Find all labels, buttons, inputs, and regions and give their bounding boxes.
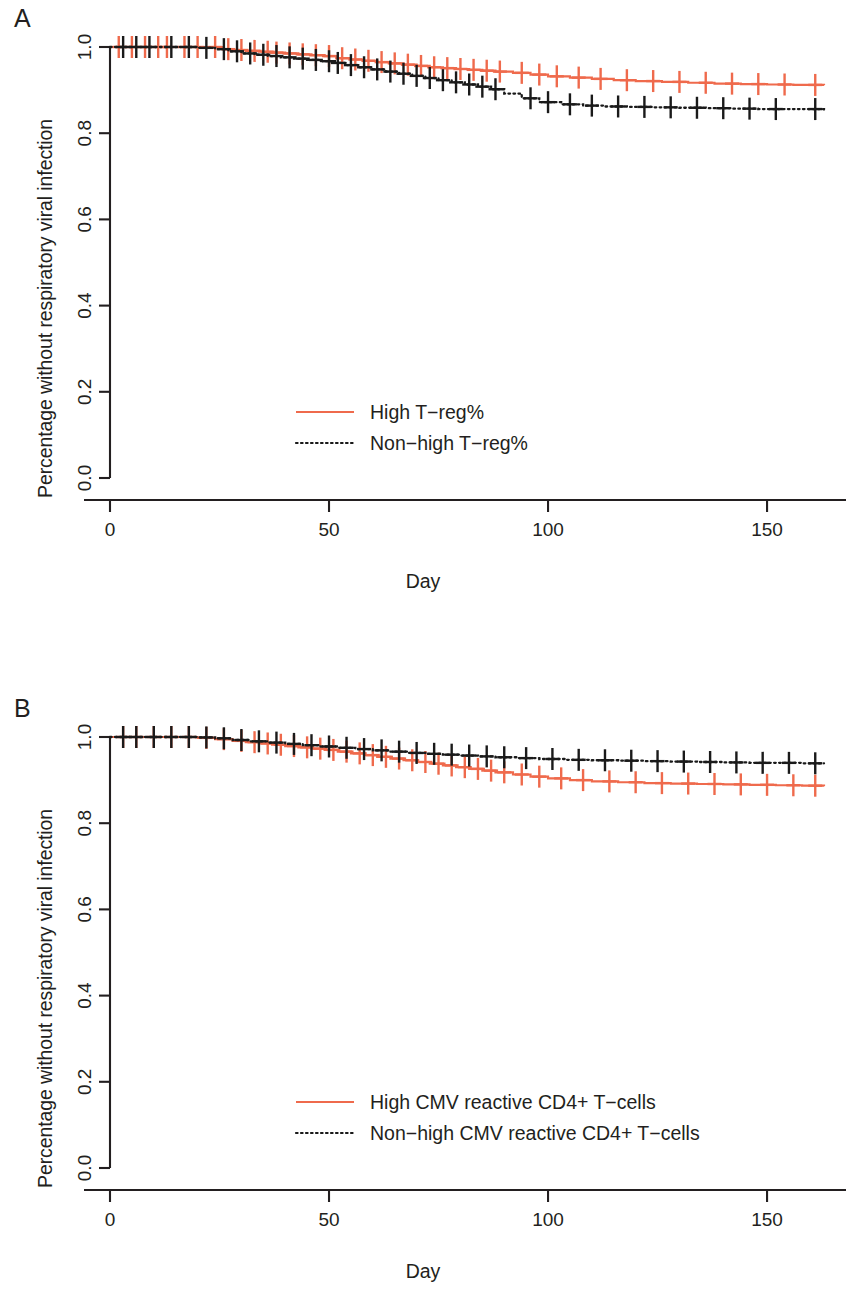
- y-tick-label: 0.0: [74, 465, 95, 491]
- series-line: [110, 737, 824, 763]
- censor-marks: [116, 36, 822, 120]
- y-tick-label: 0.0: [74, 1155, 95, 1181]
- y-tick-label: 1.0: [74, 724, 95, 750]
- x-tick-label: 150: [751, 519, 783, 540]
- y-tick-label: 0.4: [74, 982, 95, 1009]
- x-tick-label: 100: [532, 519, 564, 540]
- x-tick-label: 50: [318, 1209, 339, 1230]
- axes: 0.00.20.40.60.81.0050100150: [74, 724, 846, 1230]
- legend-label: High CMV reactive CD4+ T−cells: [370, 1091, 656, 1113]
- x-tick-label: 50: [318, 519, 339, 540]
- series-line: [110, 47, 824, 85]
- x-tick-label: 0: [105, 519, 116, 540]
- y-tick-label: 0.8: [74, 120, 95, 146]
- y-tick-label: 0.2: [74, 1069, 95, 1095]
- series-line: [110, 47, 824, 109]
- x-tick-label: 0: [105, 1209, 116, 1230]
- axes: 0.00.20.40.60.81.0050100150: [74, 34, 846, 540]
- y-tick-label: 0.6: [74, 896, 95, 922]
- panel-b-plot: 0.00.20.40.60.81.0050100150High CMV reac…: [0, 690, 846, 1290]
- panel-a-plot: 0.00.20.40.60.81.0050100150High T−reg%No…: [0, 0, 846, 600]
- figure-kaplan-meier: A Percentage without respiratory viral i…: [0, 0, 846, 1309]
- x-tick-label: 100: [532, 1209, 564, 1230]
- x-tick-label: 150: [751, 1209, 783, 1230]
- legend-label: Non−high CMV reactive CD4+ T−cells: [370, 1122, 700, 1144]
- panel-b: B Percentage without respiratory viral i…: [0, 690, 846, 1309]
- legend-label: High T−reg%: [370, 401, 484, 423]
- legend: High CMV reactive CD4+ T−cellsNon−high C…: [296, 1091, 700, 1144]
- y-tick-label: 0.8: [74, 810, 95, 836]
- y-tick-label: 1.0: [74, 34, 95, 60]
- legend: High T−reg%Non−high T−reg%: [296, 401, 528, 454]
- panel-a: A Percentage without respiratory viral i…: [0, 0, 846, 655]
- panel-a-x-axis-label: Day: [0, 570, 846, 593]
- censor-marks: [112, 36, 822, 96]
- y-tick-label: 0.4: [74, 292, 95, 319]
- y-tick-label: 0.6: [74, 206, 95, 232]
- panel-b-x-axis-label: Day: [0, 1260, 846, 1283]
- legend-label: Non−high T−reg%: [370, 432, 528, 454]
- y-tick-label: 0.2: [74, 379, 95, 405]
